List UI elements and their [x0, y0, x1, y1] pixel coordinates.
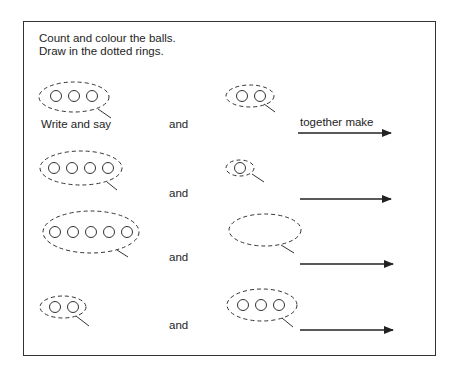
ball[interactable]	[104, 227, 115, 238]
ball[interactable]	[67, 163, 78, 174]
ball[interactable]	[256, 300, 267, 311]
ball[interactable]	[255, 91, 266, 102]
ball[interactable]	[86, 227, 97, 238]
ball[interactable]	[237, 91, 248, 102]
ring-row-3-left	[43, 211, 139, 257]
ball[interactable]	[68, 227, 79, 238]
ring-row-2-right	[226, 160, 264, 182]
ball[interactable]	[274, 300, 285, 311]
ball[interactable]	[69, 91, 80, 102]
ball[interactable]	[103, 163, 114, 174]
ball[interactable]	[122, 227, 133, 238]
ball[interactable]	[87, 91, 98, 102]
ring-row-1-right	[226, 85, 275, 112]
ball[interactable]	[51, 91, 62, 102]
ball[interactable]	[50, 227, 61, 238]
ring-row-4-right	[227, 289, 297, 327]
ring-row-3-right[interactable]	[229, 214, 301, 253]
ball[interactable]	[50, 302, 61, 313]
ball[interactable]	[238, 300, 249, 311]
ring-row-1-left	[39, 82, 111, 118]
ball[interactable]	[235, 163, 246, 174]
ball[interactable]	[85, 163, 96, 174]
worksheet-drawings	[0, 0, 459, 379]
ball[interactable]	[68, 302, 79, 313]
ball[interactable]	[49, 163, 60, 174]
ring-row-2-left	[40, 151, 122, 190]
ring-row-4-left	[40, 296, 89, 326]
